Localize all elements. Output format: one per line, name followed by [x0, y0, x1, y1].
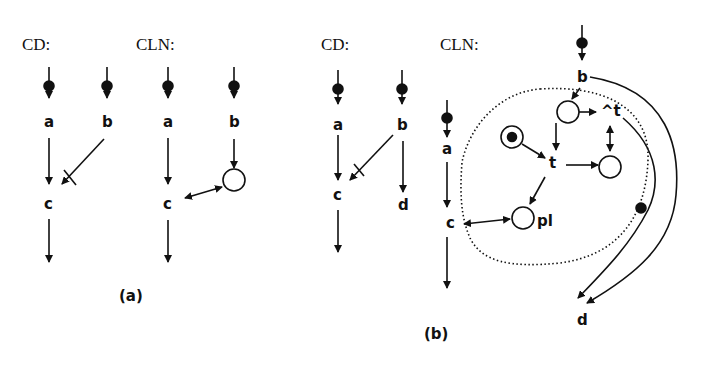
a-cln-node-c: c — [163, 197, 172, 212]
token-icon — [333, 84, 343, 94]
diagram-canvas — [0, 0, 702, 366]
b-cd-node-a: a — [333, 118, 343, 133]
b-cln-graph — [442, 25, 677, 303]
a-cln-title: CLN: — [136, 36, 175, 53]
b-cln-title: CLN: — [440, 36, 479, 53]
token-icon — [163, 81, 173, 91]
place-circle — [223, 169, 245, 191]
place-circle — [512, 207, 534, 229]
b-cln-node-pl: pl — [537, 214, 553, 229]
b-cd-title: CD: — [321, 36, 349, 53]
token-icon — [229, 81, 239, 91]
b-cln-node-d: d — [577, 313, 588, 328]
place-circle — [599, 156, 621, 178]
a-cd-node-a: a — [44, 115, 54, 130]
b-cd-node-c: c — [333, 188, 342, 203]
b-cln-node-t: t — [549, 156, 556, 171]
a-cln-node-b: b — [229, 115, 240, 130]
b-cln-node-c: c — [446, 216, 455, 231]
a-cd-node-c: c — [44, 197, 53, 212]
token-icon — [397, 84, 407, 94]
token-icon — [577, 38, 587, 48]
token-icon — [442, 113, 452, 123]
place-circle — [557, 101, 579, 123]
b-cd-node-d: d — [398, 198, 409, 213]
a-cd-node-b: b — [102, 115, 113, 130]
a-cd-title: CD: — [22, 36, 50, 53]
b-cln-node-not-t: ^t — [601, 104, 621, 119]
b-cd-node-b: b — [397, 118, 408, 133]
b-cln-node-a: a — [442, 142, 452, 157]
a-cd-graph — [44, 67, 112, 262]
token-icon — [102, 81, 112, 91]
cross-mark-icon — [64, 170, 76, 185]
token-icon — [508, 133, 517, 142]
token-icon — [44, 81, 54, 91]
token-icon — [636, 203, 646, 213]
a-cln-graph — [163, 67, 245, 262]
b-cln-node-b: b — [577, 70, 588, 85]
b-cd-graph — [333, 70, 407, 252]
a-cln-node-a: a — [163, 115, 173, 130]
caption-a: (a) — [119, 289, 143, 304]
caption-b: (b) — [424, 327, 448, 342]
